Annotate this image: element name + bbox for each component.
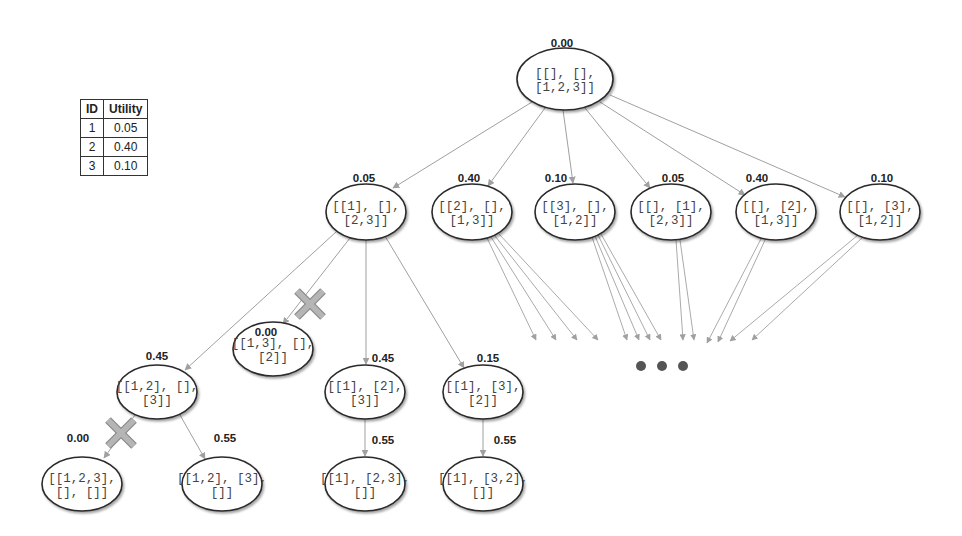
node-score: 0.10 (871, 172, 893, 184)
node-state-line2: []] (472, 486, 495, 500)
unexpanded-edge (495, 236, 577, 340)
unexpanded-edge (499, 234, 598, 340)
tree-edge (488, 108, 545, 186)
node-state-line2: [1,2]] (552, 214, 597, 228)
node-state-line2: [2,3]] (343, 214, 388, 228)
node-state-line1: [[3], [], (541, 200, 609, 214)
node-state-line1: [[], [1], (637, 200, 705, 214)
node-state-line1: [[], [], (535, 67, 595, 81)
node-state-line2: [2]] (258, 351, 288, 365)
tree-edge (180, 415, 205, 459)
node-state-line2: [1,3]] (753, 214, 798, 228)
node-score: 0.55 (214, 432, 237, 444)
node-score: 0.55 (494, 434, 517, 446)
utility-table: ID Utility 1 0.05 2 0.40 3 0.10 (80, 99, 148, 176)
header-utility: Utility (104, 100, 148, 119)
tree-node-n6: [[], [3],[1,2]]0.10 (840, 172, 920, 240)
tree-edge (385, 236, 464, 368)
node-state-line1: [[1], [3,2], (438, 472, 528, 486)
tree-node-root: [[], [],[1,2,3]]0.00 (517, 37, 613, 110)
cell-utility: 0.40 (104, 138, 148, 157)
header-id: ID (81, 100, 104, 119)
node-state-line2: []] (211, 486, 234, 500)
node-state-line1: [[1], [2], (327, 380, 402, 394)
tree-node-n112: [[1,2], [3],[]]0.55 (177, 432, 267, 511)
node-state-line2: [], []] (56, 486, 109, 500)
tree-node-n5: [[], [2],[1,3]]0.40 (736, 172, 816, 240)
node-score: 0.05 (353, 172, 376, 184)
ellipsis-dot-icon (636, 361, 646, 371)
pruned-x-icon (108, 420, 134, 446)
node-score: 0.00 (67, 432, 89, 444)
node-state-line2: [3]] (142, 394, 172, 408)
node-score: 0.15 (477, 352, 500, 364)
tree-node-n13: [[1], [2],[3]]0.45 (325, 352, 405, 419)
node-score: 0.05 (662, 172, 685, 184)
node-state-line1: [[1,2], [3], (177, 472, 267, 486)
node-state-line1: [[1,2], [], (116, 380, 199, 394)
node-state-line1: [[1], [2,3], (320, 472, 410, 486)
unexpanded-edge (730, 235, 858, 341)
nodes-layer: [[], [],[1,2,3]]0.00[[1], [],[2,3]]0.05[… (42, 37, 920, 511)
tree-node-n11: [[1,2], [],[3]]0.45 (116, 350, 199, 419)
cell-id: 3 (81, 157, 104, 176)
node-state-line2: [1,2,3]] (535, 81, 595, 95)
tree-canvas: [[], [],[1,2,3]]0.00[[1], [],[2,3]]0.05[… (0, 0, 962, 536)
tree-node-n4: [[], [1],[2,3]]0.05 (631, 172, 711, 240)
node-state-line1: [[1,3], [], (232, 337, 315, 351)
unexpanded-edge (595, 236, 639, 340)
unexpanded-edge (487, 238, 536, 340)
ellipsis-dot-icon (657, 361, 667, 371)
node-score: 0.40 (746, 172, 768, 184)
ellipsis-dot-icon (678, 361, 688, 371)
cell-id: 2 (81, 138, 104, 157)
node-score: 0.45 (372, 352, 395, 364)
unexpanded-edge (718, 238, 766, 342)
utility-table-row: 2 0.40 (81, 138, 148, 157)
cell-utility: 0.10 (104, 157, 148, 176)
node-state-line1: [[], [2], (742, 200, 810, 214)
cell-utility: 0.05 (104, 119, 148, 138)
node-score: 0.10 (545, 172, 567, 184)
unexpanded-edge (491, 237, 556, 340)
tree-node-n2: [[2], [],[1,3]]0.40 (432, 172, 512, 240)
utility-table-row: 3 0.10 (81, 157, 148, 176)
tree-node-n14: [[1], [3],[2]]0.15 (443, 352, 523, 419)
node-state-line2: [2,3]] (648, 214, 693, 228)
search-tree-diagram: [[], [],[1,2,3]]0.00[[1], [],[2,3]]0.05[… (0, 0, 962, 536)
unexpanded-edge (592, 237, 627, 340)
ellipsis-indicator (636, 361, 688, 371)
cell-id: 1 (81, 119, 104, 138)
node-score: 0.00 (255, 326, 277, 338)
utility-table-row: 1 0.05 (81, 119, 148, 138)
node-score: 0.45 (146, 350, 169, 362)
unexpanded-edges-layer (487, 234, 862, 343)
unexpanded-edge (601, 234, 661, 340)
unexpanded-edge (752, 238, 862, 340)
node-score: 0.00 (551, 37, 573, 49)
tree-node-n1: [[1], [],[2,3]]0.05 (326, 172, 406, 240)
unexpanded-edge (707, 237, 762, 343)
node-state-line1: [[], [3], (846, 200, 914, 214)
node-score: 0.40 (458, 172, 480, 184)
node-state-line1: [[1,2,3], (48, 472, 116, 486)
node-state-line1: [[2], [], (438, 200, 506, 214)
node-score: 0.55 (372, 434, 395, 446)
node-state-line2: [2]] (468, 394, 498, 408)
unexpanded-edge (598, 235, 650, 340)
pruned-x-icon (297, 291, 323, 317)
tree-node-n12: [[1,3], [],[2]]0.00 (232, 322, 315, 376)
utility-table-header: ID Utility (81, 100, 148, 119)
tree-node-n3: [[3], [],[1,2]]0.10 (535, 172, 615, 240)
node-state-line1: [[1], [], (332, 200, 400, 214)
tree-edge (585, 108, 650, 188)
node-state-line2: [3]] (350, 394, 380, 408)
node-state-line2: []] (354, 486, 377, 500)
node-state-line2: [1,3]] (449, 214, 494, 228)
node-state-line2: [1,2]] (857, 214, 902, 228)
node-state-line1: [[1], [3], (445, 380, 520, 394)
